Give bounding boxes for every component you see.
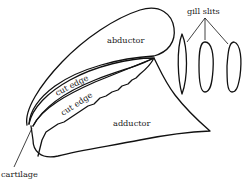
label-adductor: adductor [113, 118, 150, 128]
jaw-muscle-diagram: abductor cut edge cut edge adductor gill… [0, 0, 245, 179]
label-cartilage: cartilage [1, 169, 38, 179]
gill-slit-1 [178, 34, 186, 94]
cartilage-leader-line [14, 128, 32, 167]
label-abductor: abductor [107, 35, 144, 45]
diagram-svg: abductor cut edge cut edge adductor gill… [0, 0, 245, 179]
gill-slit-3 [227, 42, 241, 92]
label-gill-slits: gill slits [187, 6, 220, 16]
gill-slit-2 [199, 42, 213, 92]
gill-slits-leader-lines [187, 18, 228, 44]
adductor-outline [31, 58, 210, 157]
